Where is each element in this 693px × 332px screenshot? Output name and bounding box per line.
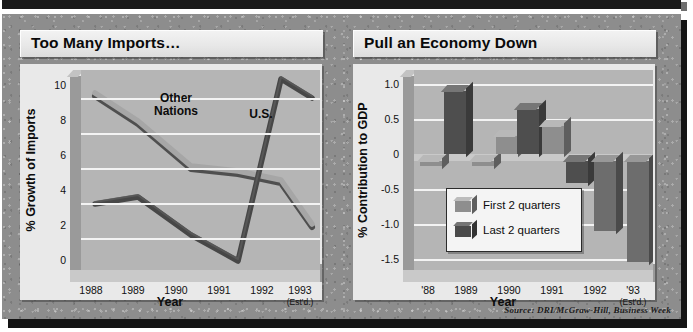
figure-root: Too Many Imports… % Growth of Imports 0 … (0, 0, 693, 332)
right-chart-legend: First 2 quarters Last 2 quarters (446, 188, 582, 252)
left-gridline-6 (81, 168, 320, 170)
bar-93-first (627, 161, 649, 262)
legend-row-first: First 2 quarters (455, 197, 560, 212)
bar-1991-first (566, 161, 588, 183)
right-floor-shelf (403, 270, 653, 282)
left-floor-shelf (70, 270, 320, 282)
left-chart-title: Too Many Imports… (31, 34, 181, 52)
chart-card-gdp: Pull an Economy Down % Contribution to G… (347, 24, 667, 309)
bar-1990-last (542, 126, 564, 154)
bar-88-last (444, 91, 466, 154)
left-xtick-1988: 1988 (68, 284, 114, 296)
left-axis-wall (70, 76, 81, 270)
right-axis-wall (403, 76, 414, 270)
legend-row-last: Last 2 quarters (455, 222, 560, 237)
right-floor-edge (653, 264, 655, 282)
right-chart-title-bar: Pull an Economy Down (353, 30, 656, 57)
right-plot-area: First 2 quarters Last 2 quarters (414, 70, 653, 270)
left-ytick-10: 10 (42, 79, 66, 91)
left-xtick-1993: 1993 (277, 284, 323, 296)
series-label-us: U.S. (241, 108, 281, 121)
left-gridline-8 (81, 133, 320, 135)
left-ytick-6: 6 (42, 149, 66, 161)
right-ytick-0.5: 0.5 (375, 113, 399, 125)
panel-drop-shadow-right (681, 20, 687, 323)
left-x-axis-caption: Year (130, 295, 210, 309)
right-ytick-1.0: 1.0 (375, 78, 399, 90)
right-ytick--0.5: -0.5 (375, 183, 399, 195)
left-ytick-8: 8 (42, 114, 66, 126)
left-chart-title-bar: Too Many Imports… (20, 30, 323, 57)
bar-1989-last (496, 136, 518, 154)
left-plot-wrapper: % Growth of Imports 0 2 4 6 8 10 (20, 64, 322, 300)
top-cut-bar (2, 0, 681, 9)
right-ytick-0: 0 (375, 148, 399, 160)
source-note: Source: DRI/McGraw-Hill, Business Week (504, 305, 671, 315)
right-xtick-93: '93 (610, 284, 656, 296)
legend-swatch-first-icon (455, 197, 477, 212)
legend-label-last: Last 2 quarters (483, 224, 560, 236)
right-gridline--1.5 (414, 259, 653, 261)
left-ytick-4: 4 (42, 184, 66, 196)
right-ytick--1.0: -1.0 (375, 218, 399, 230)
left-floor-edge (320, 264, 322, 282)
left-ytick-0: 0 (42, 254, 66, 266)
legend-swatch-last-icon (455, 222, 477, 237)
chart-card-imports: Too Many Imports… % Growth of Imports 0 … (14, 24, 334, 309)
bar-88-first (420, 161, 442, 166)
left-ytick-2: 2 (42, 219, 66, 231)
right-ytick--1.5: -1.5 (375, 253, 399, 265)
top-cut-bar-shadow (681, 2, 687, 11)
right-plot-wrapper: % Contribution to GDP 1.0 0.5 0 -0.5 -1.… (353, 64, 655, 300)
bar-1989-first (472, 161, 494, 166)
left-gridline-4 (81, 203, 320, 205)
legend-label-first: First 2 quarters (483, 199, 560, 211)
bar-1992-first (594, 161, 616, 231)
left-y-axis-caption: % Growth of Imports (20, 72, 42, 268)
right-chart-title: Pull an Economy Down (364, 34, 537, 52)
outer-panel: Too Many Imports… % Growth of Imports 0 … (2, 14, 681, 319)
right-y-axis-caption: % Contribution to GDP (352, 72, 374, 268)
left-gridline-2 (81, 238, 320, 240)
bar-1990-first (517, 109, 539, 154)
panel-drop-shadow-bottom (8, 319, 687, 328)
left-xtick-1993-sub: (Est'd.) (277, 297, 323, 307)
series-label-other-nations: Other Nations (139, 92, 213, 117)
left-plot-area: Other Nations U.S. (81, 70, 320, 270)
